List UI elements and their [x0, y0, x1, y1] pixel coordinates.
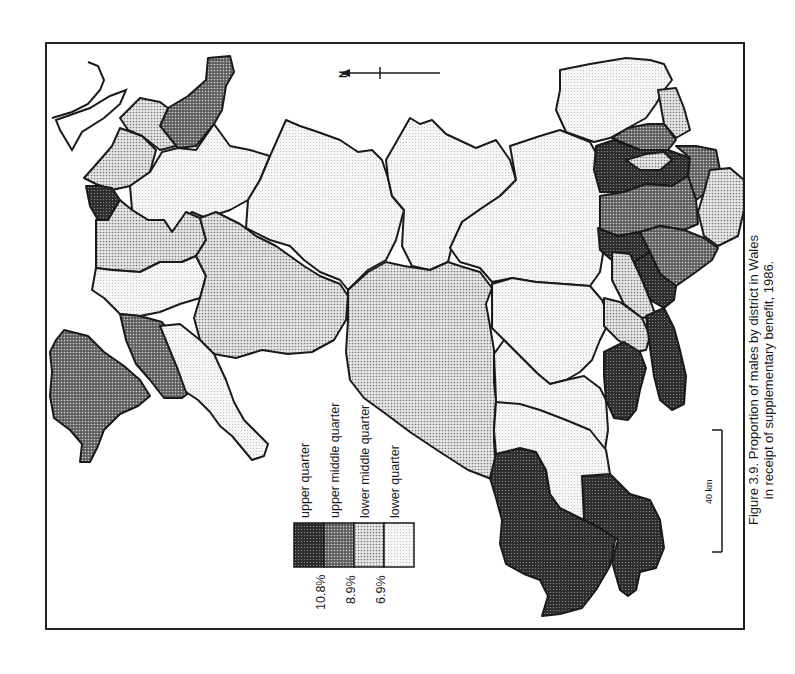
legend-swatch-upper-quarter: [294, 523, 324, 567]
scale-bar-label: 40 km: [704, 479, 714, 504]
legend-break-1: 10.8%: [314, 575, 328, 610]
north-label: N: [338, 71, 349, 78]
caption-line-2: in receipt of supplementary benefit, 198…: [761, 235, 776, 525]
legend-break-3: 6.9%: [374, 576, 388, 605]
legend-swatches: [0, 0, 795, 674]
legend-label-lower-middle-quarter: lower middle quarter: [358, 405, 372, 518]
north-arrow-icon: [340, 67, 440, 79]
figure-caption: Figure 3.9. Proportion of males by distr…: [746, 235, 776, 525]
legend-label-upper-quarter: upper quarter: [298, 443, 312, 518]
legend-swatch-lower-middle-quarter: [354, 523, 384, 567]
legend-swatch-upper-middle-quarter: [324, 523, 354, 567]
legend-label-upper-middle-quarter: upper middle quarter: [328, 403, 342, 518]
legend-swatch-lower-quarter: [384, 523, 414, 567]
caption-line-1: Figure 3.9. Proportion of males by distr…: [746, 235, 761, 525]
map-figure: upper quarter upper middle quarter lower…: [0, 0, 795, 674]
legend-label-lower-quarter: lower quarter: [388, 445, 402, 518]
legend-break-2: 8.9%: [344, 576, 358, 605]
